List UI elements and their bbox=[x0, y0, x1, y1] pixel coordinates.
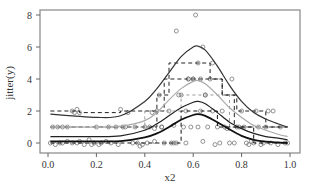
data-point bbox=[232, 141, 236, 145]
step-mid-line bbox=[50, 79, 287, 127]
y-axis: 02468 bbox=[27, 10, 40, 149]
y-tick-label: 0 bbox=[27, 138, 32, 149]
y-axis-label: jitter(y) bbox=[3, 66, 16, 101]
x-tick-label: 1.0 bbox=[284, 159, 297, 170]
y-tick-label: 2 bbox=[27, 106, 32, 117]
scatter-plot: 0.00.20.40.60.81.0 02468 x2 jitter(y) bbox=[0, 0, 314, 186]
y-tick-label: 8 bbox=[27, 10, 32, 21]
y-tick-label: 6 bbox=[27, 42, 32, 53]
data-point bbox=[174, 29, 178, 33]
curve-top-line bbox=[50, 46, 287, 127]
data-point bbox=[196, 125, 200, 129]
smooth-curves bbox=[50, 46, 287, 143]
data-point bbox=[218, 141, 222, 145]
x-tick-label: 0.8 bbox=[235, 159, 248, 170]
data-point bbox=[228, 141, 232, 145]
plot-frame bbox=[40, 10, 300, 153]
curve-mid-line bbox=[50, 101, 287, 140]
x-tick-label: 0.2 bbox=[90, 159, 103, 170]
data-point bbox=[182, 125, 186, 129]
data-point bbox=[206, 125, 210, 129]
x-tick-label: 0.0 bbox=[42, 159, 55, 170]
curve-bottom-line bbox=[50, 114, 287, 143]
data-point bbox=[184, 141, 188, 145]
data-point bbox=[213, 143, 217, 147]
data-point bbox=[271, 109, 275, 113]
curve-gray-line bbox=[50, 80, 287, 136]
data-point bbox=[160, 125, 164, 129]
x-tick-label: 0.4 bbox=[139, 159, 152, 170]
x-tick-label: 0.6 bbox=[187, 159, 200, 170]
y-tick-label: 4 bbox=[27, 74, 32, 85]
data-point bbox=[220, 109, 224, 113]
data-point bbox=[201, 139, 205, 143]
data-point bbox=[194, 13, 198, 17]
x-axis: 0.00.20.40.60.81.0 bbox=[42, 153, 297, 170]
x-axis-label: x2 bbox=[165, 171, 176, 183]
step-lines bbox=[50, 63, 287, 143]
data-point bbox=[266, 109, 270, 113]
data-point bbox=[230, 77, 234, 81]
data-point bbox=[189, 125, 193, 129]
